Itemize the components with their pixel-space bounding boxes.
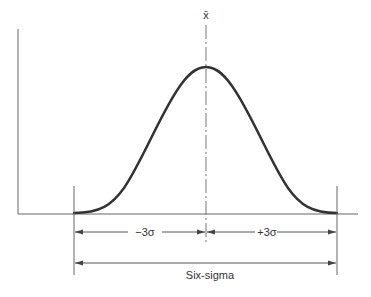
plus-3sigma-label: +3σ — [257, 226, 277, 238]
six-sigma-label: Six-sigma — [186, 269, 235, 281]
minus-3sigma-label: −3σ — [135, 226, 155, 238]
mean-label: x̄ — [203, 9, 209, 21]
six-sigma-diagram: x̄ −3σ +3σ Six-sigma — [0, 0, 371, 297]
